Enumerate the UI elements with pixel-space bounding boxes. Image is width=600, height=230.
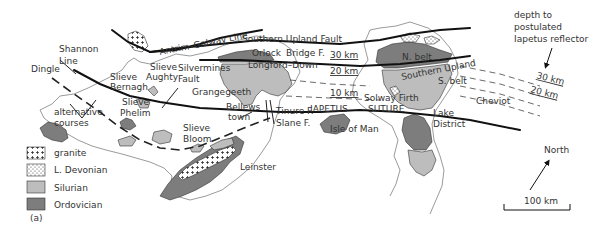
label-solway-firth: Solway Firth: [364, 93, 419, 103]
label-bridge-f: Bridge F.: [286, 48, 325, 58]
label-slieve-aughty-1: Slieve: [150, 62, 178, 72]
label-slieve-bloom-1: Slieve: [183, 123, 211, 133]
label-depth-to: depth to: [514, 10, 553, 20]
label-slieve-bernagh-1: Slieve: [110, 72, 138, 82]
label-north: North: [544, 145, 569, 155]
label-depth-30km-map: 30 km: [330, 50, 358, 60]
label-iapetus-reflector: Iapetus reflector: [514, 34, 588, 44]
label-bellewstown-1: Bellews: [226, 102, 261, 112]
scale-bar: 100 km: [504, 196, 570, 210]
label-longford-down: Longford–Down: [248, 60, 318, 70]
label-depth-30km-offshore: 30 km: [536, 70, 566, 87]
label-leinster: Leinster: [240, 162, 276, 172]
north-arrow: North: [530, 145, 569, 190]
label-s-belt: S. belt: [438, 76, 467, 86]
legend-label-ordovician: Ordovician: [54, 200, 102, 210]
label-scale: 100 km: [524, 196, 558, 206]
label-depth-10km-map: 10 km: [330, 88, 358, 98]
figure-label: (a): [30, 213, 43, 223]
label-grangegeeth: Grangegeeth: [192, 87, 251, 97]
label-shannon-line: Line: [59, 56, 78, 66]
label-bellewstown-2: town: [228, 112, 250, 122]
label-postulated: postulated: [514, 22, 562, 32]
label-depth-20km-map: 20 km: [330, 66, 358, 76]
label-shannon: Shannon: [59, 44, 99, 54]
label-isle-of-man: Isle of Man: [330, 124, 379, 134]
legend-swatch-ordovician: [27, 198, 45, 210]
label-slieve-phelim-1: Slieve: [122, 97, 150, 107]
legend-label-granite: granite: [54, 148, 87, 158]
label-courses: courses: [54, 118, 89, 128]
legend-label-devonian: L. Devonian: [54, 165, 107, 175]
label-slane: Slane F.: [276, 118, 310, 128]
geological-map: Antrim–Galway Line Southern Upland Fault…: [0, 0, 600, 230]
label-tinure: Tinure F.: [275, 106, 314, 116]
label-slieve-bernagh-2: Bernagh: [110, 82, 148, 92]
label-orlock: Orlock: [252, 48, 282, 58]
label-lake: Lake: [433, 108, 454, 118]
label-depth-20km-offshore: 20 km: [530, 84, 560, 101]
label-district: District: [433, 119, 466, 129]
label-silvermines: Silvermines: [178, 63, 231, 73]
legend-label-silurian: Silurian: [54, 183, 88, 193]
legend-swatch-granite: [27, 147, 45, 159]
label-slieve-aughty-2: Aughty: [146, 72, 179, 82]
label-dingle: Dingle: [31, 64, 60, 74]
label-n-belt: N. belt: [402, 52, 432, 62]
label-iapetus: IAPETUS: [310, 104, 348, 114]
depth-pointer-arrow: [546, 48, 552, 66]
label-suture: SUTURE: [368, 104, 405, 114]
label-alternative: alternative: [54, 107, 103, 117]
label-southern-upland-fault: Southern Upland Fault: [242, 34, 342, 44]
map-labels: Antrim–Galway Line Southern Upland Fault…: [31, 10, 588, 172]
legend-swatch-devonian: [27, 164, 45, 176]
label-silvermines-fault: Fault: [178, 74, 200, 84]
legend: granite L. Devonian Silurian Ordovician …: [27, 147, 107, 223]
label-cheviot: Cheviot: [476, 96, 511, 106]
legend-swatch-silurian: [27, 181, 45, 193]
label-slieve-phelim-2: Phelim: [120, 108, 150, 118]
label-slieve-bloom-2: Bloom: [183, 134, 211, 144]
